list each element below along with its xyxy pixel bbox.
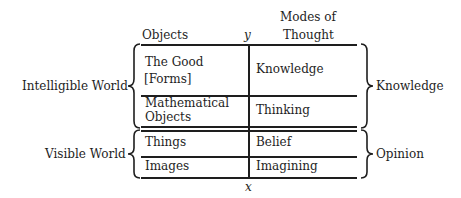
right-brace-opinion-icon [359,129,375,179]
row4-mode: Imagining [256,160,318,173]
left-brace-visible-icon [126,129,142,179]
opinion-group-label: Opinion [376,148,424,161]
y-axis-label: y [244,29,251,42]
row2-object-line1: Mathematical [145,97,229,110]
row1-object-line1: The Good [145,56,203,69]
row1-mode: Knowledge [256,63,324,76]
row2-object-line2: Objects [145,111,191,124]
row3-mode: Belief [256,136,291,149]
row1-object-line2: [Forms] [144,73,192,86]
visible-world-label: Visible World [45,148,126,161]
left-brace-intelligible-icon [126,43,142,129]
row3-object: Things [145,136,186,149]
x-axis-label: x [245,181,252,194]
row4-object: Images [145,160,189,173]
objects-column-header: Objects [142,29,188,42]
vertical-divider-line [248,44,250,178]
row2-mode: Thinking [256,104,310,117]
right-brace-knowledge-icon [359,43,375,129]
intelligible-world-label: Intelligible World [22,80,128,93]
modes-header-line2: Thought [283,29,334,42]
modes-header-line1: Modes of [280,11,336,24]
knowledge-group-label: Knowledge [376,80,444,93]
